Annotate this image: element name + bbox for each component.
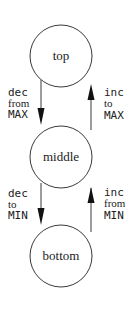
edge-label-dec-to-min: dec to MIN <box>8 187 28 222</box>
node-label-bottom: bottom <box>43 248 80 263</box>
edge-top-to-middle <box>38 80 45 125</box>
arrowhead-down-icon <box>38 208 45 225</box>
svg-text:to: to <box>104 97 113 109</box>
state-node-top: top <box>30 25 92 87</box>
state-node-middle: middle <box>30 126 92 188</box>
node-label-middle: middle <box>43 149 79 164</box>
state-node-bottom: bottom <box>30 225 92 287</box>
edge-label-inc-from-min: inc from MIN <box>104 186 126 222</box>
edge-middle-to-top <box>88 84 95 130</box>
svg-text:MAX: MAX <box>8 108 28 121</box>
edge-middle-to-bottom <box>38 183 45 225</box>
svg-text:MIN: MIN <box>8 209 28 222</box>
arrowhead-down-icon <box>38 108 45 125</box>
node-label-top: top <box>53 48 70 63</box>
svg-text:from: from <box>104 197 126 209</box>
edge-label-inc-to-max: inc to MAX <box>104 86 124 122</box>
edge-label-dec-from-max: dec from MAX <box>8 86 30 121</box>
svg-text:MAX: MAX <box>104 109 124 122</box>
state-diagram: top middle bottom dec from MAX inc to MA… <box>0 0 138 310</box>
svg-text:MIN: MIN <box>104 209 124 222</box>
arrowhead-up-icon <box>88 84 95 100</box>
arrowhead-up-icon <box>88 187 95 203</box>
edge-bottom-to-middle <box>88 187 95 232</box>
